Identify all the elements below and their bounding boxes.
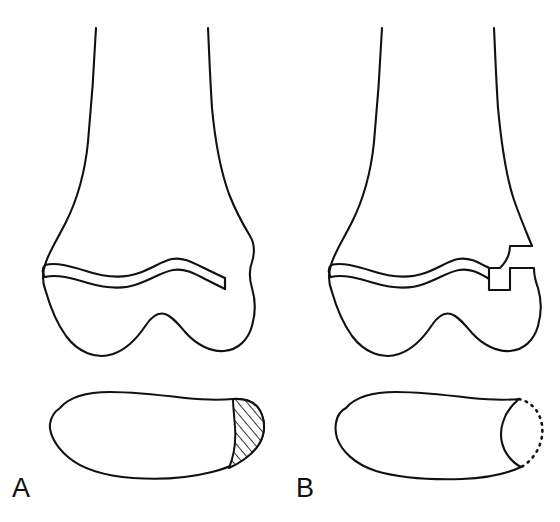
figure-root: A B (0, 0, 560, 522)
panel-b-label: B (296, 473, 314, 503)
panel-a-cross-section-view (50, 392, 264, 479)
panel-b-condylar-cross-section-outline (336, 392, 521, 479)
panel-a-label: A (12, 473, 30, 503)
anatomical-line-drawing: A B (0, 0, 560, 522)
